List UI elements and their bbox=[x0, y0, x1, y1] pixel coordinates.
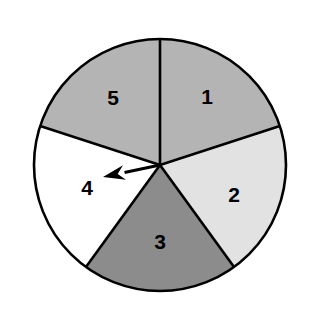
spinner-chart: 1 2 3 4 5 bbox=[0, 0, 313, 328]
spinner-figure: 1 2 3 4 5 bbox=[0, 0, 313, 328]
pie-label-1: 1 bbox=[201, 85, 213, 108]
pie-label-5: 5 bbox=[107, 86, 119, 109]
pie-label-2: 2 bbox=[228, 183, 240, 206]
pie-label-4: 4 bbox=[81, 176, 93, 199]
pie-label-3: 3 bbox=[154, 230, 166, 253]
